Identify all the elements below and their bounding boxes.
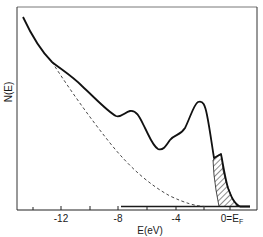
x-tick-label-zero-ef-main: 0=E	[221, 213, 239, 224]
x-tick-label-m4: -4	[172, 213, 181, 224]
x-tick-label-m8: -8	[114, 213, 123, 224]
dos-chart: N(E) -12 -8 -4 0=EF E(eV)	[0, 0, 263, 237]
x-tick-label-m12: -12	[54, 213, 69, 224]
x-tick-label-zero-ef-sub: F	[239, 218, 243, 225]
background-dashed-curve	[52, 62, 205, 207]
x-axis-label: E(eV)	[137, 225, 163, 236]
x-tick-label-zero-ef: 0=EF	[221, 213, 243, 225]
y-axis-label: N(E)	[3, 82, 14, 103]
